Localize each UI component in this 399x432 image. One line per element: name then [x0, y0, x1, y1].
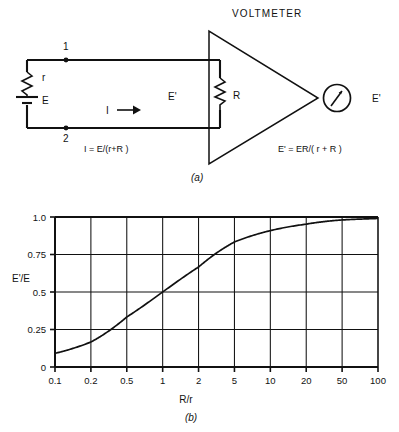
chart-ytick-label: 0.75	[28, 249, 47, 260]
source-E-label: E	[42, 95, 49, 106]
chart-y-tick-labels: 00.250.50.751.0	[28, 212, 47, 373]
chart-gridlines	[55, 217, 378, 367]
chart-ytick-label: 0.5	[33, 287, 46, 298]
chart-x-tick-labels: 0.10.20.5125102050100	[48, 375, 386, 386]
chart-xtick-label: 0.2	[84, 375, 97, 386]
chart-x-axis-label: R/r	[179, 394, 193, 405]
chart-ytick-label: 1.0	[33, 212, 46, 223]
chart-curve	[55, 218, 378, 353]
meter-needle-icon	[324, 85, 351, 112]
load-resistor-zigzag-icon	[215, 78, 225, 110]
figure-canvas: VOLTMETER r E 1 2	[0, 0, 399, 432]
formula-right: E' = ER/( r + R )	[278, 144, 342, 154]
resistor-zigzag-icon	[22, 72, 32, 97]
resistor-r-label: r	[42, 72, 46, 83]
chart-y-axis-label: E'/E	[12, 273, 30, 284]
chart-xtick-label: 100	[370, 375, 386, 386]
chart-xtick-label: 5	[232, 375, 237, 386]
current-I-label: I	[106, 105, 109, 116]
chart-xtick-label: 50	[337, 375, 348, 386]
panel-b-chart: 0.10.20.5125102050100 00.250.50.751.0 E'…	[12, 212, 386, 424]
chart-data-curve	[55, 218, 378, 353]
meter-output-label: E'	[372, 93, 381, 104]
chart-ytick-label: 0.25	[28, 324, 47, 335]
panel-a-circuit: VOLTMETER r E 1 2	[16, 8, 381, 183]
chart-xtick-label: 0.1	[48, 375, 61, 386]
current-arrow-icon	[117, 106, 141, 115]
figure-page: VOLTMETER r E 1 2	[0, 0, 399, 432]
chart-ytick-label: 0	[41, 362, 46, 373]
node-1-label: 1	[63, 41, 69, 52]
load-resistor-R-label: R	[233, 90, 240, 101]
chart-xtick-label: 10	[265, 375, 276, 386]
formula-left: I = E/(r+R )	[84, 144, 129, 154]
voltmeter-title: VOLTMETER	[232, 8, 302, 19]
formula-right-text: E' = ER/( r + R )	[278, 144, 342, 154]
formula-left-text: I = E/(r+R )	[84, 144, 129, 154]
panel-b-caption: (b)	[185, 412, 197, 423]
node-2-label: 2	[63, 133, 69, 144]
node-2-dot	[64, 126, 69, 131]
panel-a-caption: (a)	[191, 172, 203, 183]
battery-cell-icon	[16, 97, 38, 103]
chart-xtick-label: 1	[160, 375, 165, 386]
node-1-dot	[64, 58, 69, 63]
chart-xtick-label: 20	[301, 375, 312, 386]
chart-tickmarks	[50, 217, 378, 372]
chart-xtick-label: 2	[196, 375, 201, 386]
loop-voltage-label: E'	[168, 91, 177, 102]
chart-xtick-label: 0.5	[120, 375, 133, 386]
